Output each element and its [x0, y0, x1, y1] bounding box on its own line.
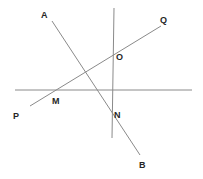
label-p: P	[13, 112, 19, 121]
geometry-figure: A Q O M P N B	[0, 0, 203, 179]
label-b: B	[139, 161, 146, 170]
label-n: N	[114, 111, 121, 120]
figure-canvas	[0, 0, 203, 179]
line-pq	[30, 26, 161, 106]
line-ab	[52, 21, 140, 155]
lines-group	[15, 8, 192, 155]
label-o: O	[116, 53, 123, 62]
label-a: A	[41, 11, 48, 20]
label-m: M	[52, 97, 60, 106]
label-q: Q	[160, 16, 167, 25]
